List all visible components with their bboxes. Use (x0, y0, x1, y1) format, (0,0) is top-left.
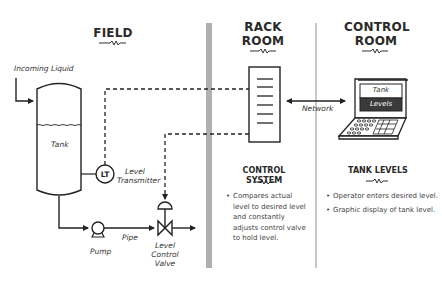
laptop-screen-line1: Tank (360, 86, 402, 95)
pump-icon (92, 222, 104, 237)
control-squiggle-icon (362, 49, 388, 53)
rack-control-divider (315, 23, 317, 268)
control-valve-icon (158, 202, 172, 235)
incoming-arrow-icon (16, 78, 33, 101)
tank-levels-squiggle-icon (366, 179, 388, 183)
control-system-bullets: Compares actual level to desired level a… (226, 191, 306, 244)
field-header: FIELD (88, 26, 138, 40)
level-transmitter-label: Level Transmitter (117, 167, 160, 185)
rack-room-header: RACK ROOM (238, 20, 288, 48)
tank-levels-title: TANK LEVELS (340, 166, 416, 176)
valve-label-line3: Valve (148, 259, 182, 268)
network-label: Network (302, 104, 333, 113)
control-system-title: CONTROL SYSTEM (226, 166, 302, 186)
incoming-liquid-label: Incoming Liquid (14, 64, 74, 73)
level-transmitter-label-line2: Transmitter (117, 176, 160, 185)
level-control-valve-label: Level Control Valve (148, 241, 182, 268)
level-transmitter-label-line1: Level (117, 167, 160, 176)
field-rack-divider (206, 23, 212, 268)
rack-squiggle-icon (250, 49, 276, 53)
rack-cabinet-icon (249, 67, 280, 142)
lt-label: LT (99, 170, 111, 179)
rack-room-header-line2: ROOM (238, 34, 288, 48)
tank-levels-bullets: Operator enters desired level. Graphic d… (326, 191, 438, 215)
field-squiggle-icon (99, 41, 126, 45)
pump-label: Pump (90, 247, 111, 256)
pipe-label: Pipe (122, 233, 138, 242)
pipe-tank-to-pump (59, 196, 88, 228)
control-room-header-line2: ROOM (344, 34, 408, 48)
rack-room-header-line1: RACK (238, 20, 288, 34)
control-room-header: CONTROL ROOM (344, 20, 408, 48)
laptop-screen-line2: Levels (360, 100, 402, 109)
signal-line-lt-to-rack (105, 89, 271, 165)
valve-label-line1: Level (148, 241, 182, 250)
valve-label-line2: Control (148, 250, 182, 259)
tank-levels-bullet: Graphic display of tank level. (326, 205, 438, 216)
tank-label: Tank (51, 140, 69, 149)
control-room-header-line1: CONTROL (344, 20, 408, 34)
control-system-bullet: Compares actual level to desired level a… (226, 191, 306, 244)
tank-levels-bullet: Operator enters desired level. (326, 191, 438, 202)
